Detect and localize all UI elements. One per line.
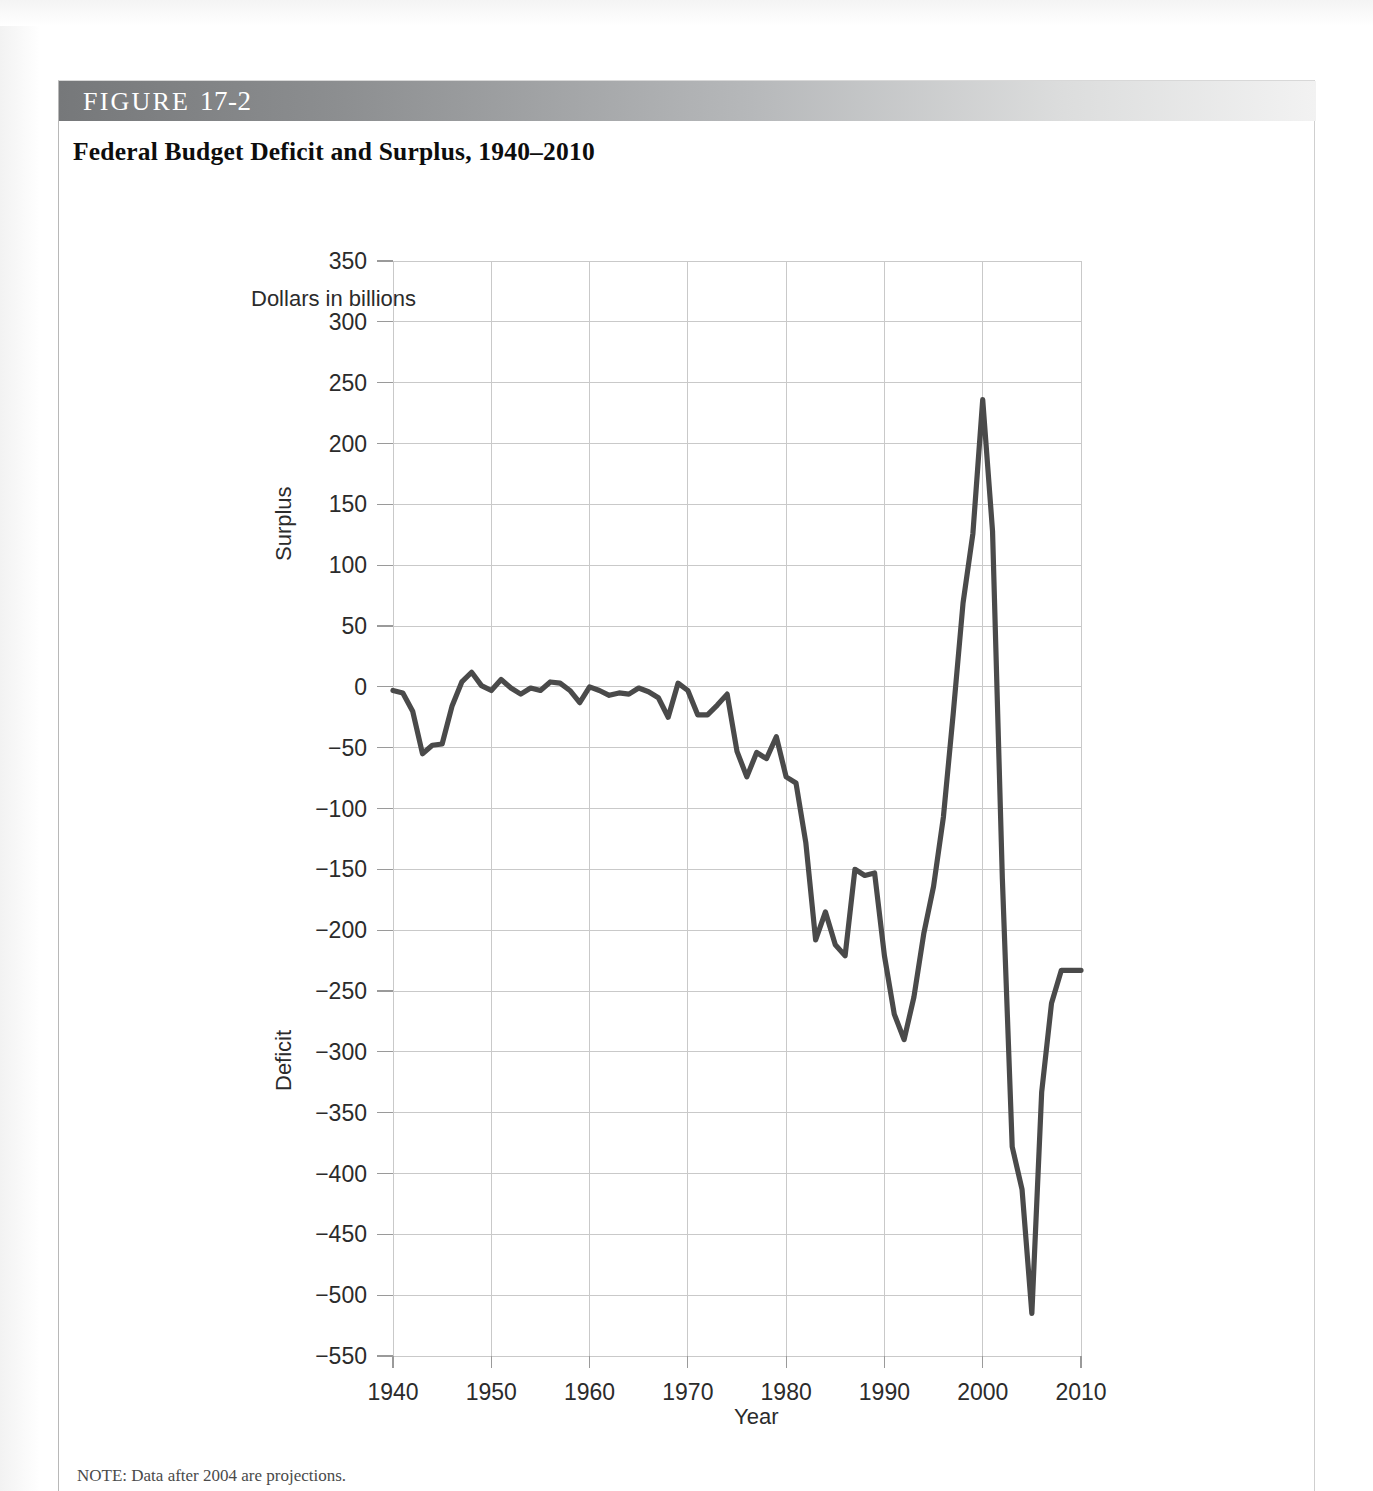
x-tick-label: 1960: [564, 1379, 615, 1405]
x-tick-label: 1980: [761, 1379, 812, 1405]
y-tick-label: 100: [329, 552, 367, 578]
x-tick-label: 2000: [957, 1379, 1008, 1405]
y-tick-label: 200: [329, 431, 367, 457]
y-tick-label: 300: [329, 309, 367, 335]
data-line-federal-budget-surplus-or-deficit: [393, 400, 1081, 1314]
y-tick-label: 150: [329, 491, 367, 517]
figure-frame: FIGURE17-2 Federal Budget Deficit and Su…: [58, 80, 1315, 1491]
chart-area: Dollars in billions Year Surplus Deficit…: [59, 81, 1316, 1491]
line-chart-svg: 350300250200150100500−50−100−150−200−250…: [59, 81, 1316, 1491]
y-tick-label: −200: [315, 917, 367, 943]
y-tick-label: −250: [315, 978, 367, 1004]
figure-note: NOTE: Data after 2004 are projections.: [77, 1466, 346, 1486]
y-tick-label: −350: [315, 1100, 367, 1126]
x-tick-label: 2010: [1055, 1379, 1106, 1405]
y-tick-label: −450: [315, 1221, 367, 1247]
x-tick-label: 1940: [367, 1379, 418, 1405]
y-tick-label: 350: [329, 248, 367, 274]
y-tick-label: −300: [315, 1039, 367, 1065]
y-tick-label: −100: [315, 796, 367, 822]
y-tick-label: −500: [315, 1282, 367, 1308]
y-tick-label: 50: [341, 613, 367, 639]
x-tick-label: 1970: [662, 1379, 713, 1405]
page-edge-left-shadow: [0, 0, 40, 1491]
y-tick-label: −150: [315, 856, 367, 882]
y-tick-label: −50: [328, 735, 367, 761]
x-tick-label: 1990: [859, 1379, 910, 1405]
page-edge-top-shadow: [0, 0, 1373, 26]
y-tick-label: −400: [315, 1161, 367, 1187]
y-tick-label: 250: [329, 370, 367, 396]
y-tick-label: −550: [315, 1343, 367, 1369]
x-tick-label: 1950: [466, 1379, 517, 1405]
y-tick-label: 0: [354, 674, 367, 700]
